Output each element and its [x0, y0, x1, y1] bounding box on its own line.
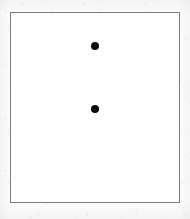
- data-point-lower-point: [91, 105, 99, 113]
- figure-root: [0, 0, 190, 219]
- plot-frame-border: [10, 12, 180, 203]
- plot-area: [11, 13, 179, 202]
- data-point-upper-point: [91, 42, 99, 50]
